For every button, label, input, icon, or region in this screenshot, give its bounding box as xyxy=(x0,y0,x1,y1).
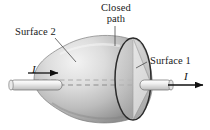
closed-path-label-line1: Closed xyxy=(101,2,131,13)
closed-path-label: Closed path xyxy=(101,2,131,24)
closed-path-ellipse xyxy=(115,38,151,120)
current-label-left: I xyxy=(32,63,36,75)
closed-path-label-line2: path xyxy=(101,13,131,24)
surface-2-label: Surface 2 xyxy=(15,26,56,37)
current-label-right: I xyxy=(184,70,188,82)
surface-1-label: Surface 1 xyxy=(150,55,191,66)
physics-figure: Closed path Surface 2 Surface 1 I I xyxy=(0,0,210,130)
wire-left xyxy=(9,80,62,90)
